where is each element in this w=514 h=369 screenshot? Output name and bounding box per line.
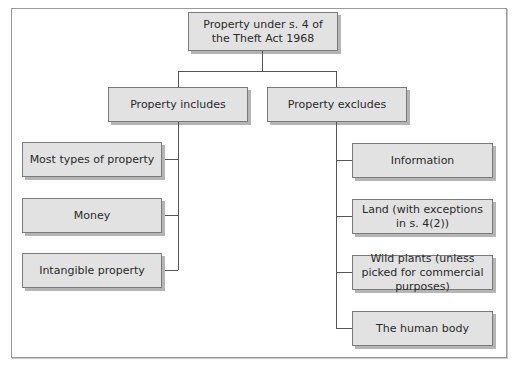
root-node: Property under s. 4 of the Theft Act 196… (188, 12, 338, 51)
excludes-child-label: Information (391, 154, 455, 168)
excludes-child-node: The human body (352, 311, 493, 346)
excludes-tick-connector (336, 272, 352, 273)
includes-tick-connector (161, 270, 178, 271)
excludes-child-label: Wild plants (unless picked for commercia… (357, 252, 488, 294)
branch-includes-label: Property includes (130, 98, 226, 112)
excludes-child-label: The human body (376, 322, 469, 336)
includes-spine-connector (178, 122, 179, 270)
includes-child-node: Intangible property (22, 253, 162, 288)
excludes-tick-connector (336, 328, 352, 329)
branch-horizontal-connector (178, 71, 337, 72)
root-stem-connector (262, 51, 263, 71)
excludes-child-label: Land (with exceptions in s. 4(2)) (357, 203, 488, 231)
includes-child-label: Most types of property (30, 153, 155, 167)
excludes-tick-connector (336, 160, 352, 161)
branch-node-includes: Property includes (108, 87, 248, 122)
includes-child-label: Money (74, 209, 110, 223)
excludes-child-node: Information (352, 143, 493, 178)
excludes-stem-connector (336, 71, 337, 87)
excludes-spine-connector (336, 122, 337, 328)
includes-tick-connector (161, 159, 178, 160)
excludes-tick-connector (336, 216, 352, 217)
includes-child-node: Money (22, 198, 162, 233)
branch-excludes-label: Property excludes (288, 98, 387, 112)
root-node-label: Property under s. 4 of the Theft Act 196… (193, 18, 333, 46)
excludes-child-node: Land (with exceptions in s. 4(2)) (352, 199, 493, 234)
includes-child-label: Intangible property (39, 264, 145, 278)
excludes-child-node: Wild plants (unless picked for commercia… (352, 255, 493, 290)
diagram-frame (11, 8, 507, 358)
includes-child-node: Most types of property (22, 142, 162, 177)
includes-tick-connector (161, 215, 178, 216)
includes-stem-connector (178, 71, 179, 87)
branch-node-excludes: Property excludes (267, 87, 407, 122)
